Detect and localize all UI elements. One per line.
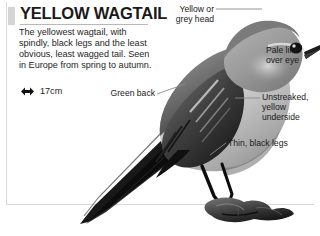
title-accent-marker (8, 7, 15, 25)
callout-label-green-back: Green back (83, 88, 155, 98)
field-guide-page: YELLOW WAGTAIL The yellowest wagtail, wi… (0, 0, 320, 236)
page-frame-left-rule (6, 2, 7, 205)
callout-label-head: Yellow or grey head (152, 4, 214, 24)
callout-label-legs: Thin, black legs (228, 138, 320, 148)
size-value: 17cm (40, 86, 62, 96)
double-headed-arrow-icon (21, 82, 34, 100)
callout-label-underside: Unstreaked, yellow underside (262, 92, 320, 123)
size-indicator: 17cm (21, 82, 62, 100)
perch-rock (205, 198, 294, 223)
callout-label-pale-line: Pale line over eye (266, 45, 320, 65)
